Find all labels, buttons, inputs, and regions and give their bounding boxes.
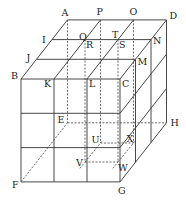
vertex-label-x: X: [127, 133, 134, 144]
right-face-line: [120, 123, 167, 182]
vertex-label-n: N: [153, 35, 161, 46]
cube-diagram: APODIQTNJRSMBKLCEHUXVWFG: [0, 0, 186, 204]
vertex-label-e: E: [58, 114, 65, 125]
vertex-label-j: J: [26, 52, 31, 63]
vertex-label-g: G: [118, 185, 126, 196]
vertex-label-f: F: [12, 179, 19, 190]
vertex-labels: APODIQTNJRSMBKLCEHUXVWFG: [11, 6, 179, 196]
vertex-label-t: T: [112, 29, 119, 40]
hidden-edge-FE: [21, 123, 68, 182]
vertex-label-l: L: [89, 78, 96, 89]
vertex-label-b: B: [11, 70, 18, 81]
vertex-label-i: I: [42, 34, 46, 45]
vertex-label-k: K: [44, 78, 52, 89]
vertex-label-c: C: [122, 78, 129, 89]
cube-diagram-svg: APODIQTNJRSMBKLCEHUXVWFG: [0, 0, 186, 204]
vertex-label-p: P: [97, 6, 104, 17]
vertex-label-d: D: [170, 10, 178, 21]
vertex-label-v: V: [75, 157, 83, 168]
vertex-label-r: R: [86, 39, 94, 50]
vertex-label-m: M: [138, 56, 148, 67]
vertex-label-o: O: [130, 6, 138, 17]
vertex-label-w: W: [118, 162, 128, 173]
vertex-label-s: S: [119, 39, 126, 50]
vertex-label-u: U: [92, 134, 100, 145]
vertex-label-h: H: [171, 117, 179, 128]
vertex-label-a: A: [61, 7, 69, 18]
